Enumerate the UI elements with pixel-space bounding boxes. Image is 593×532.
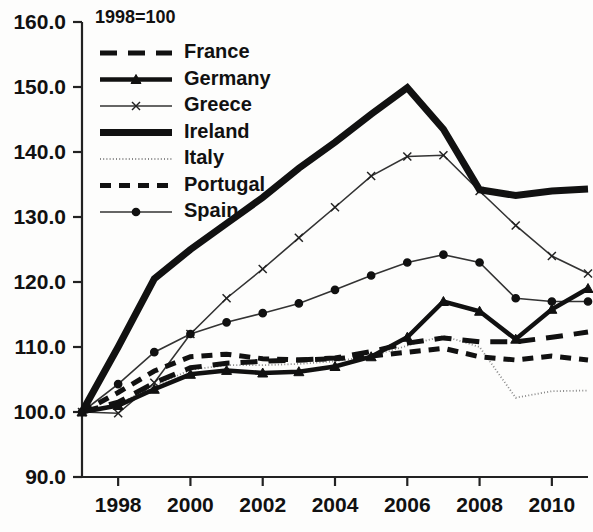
x-axis-ticks: 1998200020022004200620082010 <box>95 477 575 516</box>
legend-label-ireland: Ireland <box>184 120 250 142</box>
series-marker-spain <box>368 272 375 279</box>
series-marker-spain <box>404 259 411 266</box>
legend-item-germany[interactable]: Germany <box>100 67 272 89</box>
legend-label-france: France <box>184 40 250 62</box>
y-tick-label: 140.0 <box>13 140 66 163</box>
series-marker-spain <box>440 251 447 258</box>
legend-marker-spain <box>132 208 139 215</box>
legend-item-spain[interactable]: Spain <box>100 199 238 221</box>
x-tick-label: 2008 <box>456 493 503 516</box>
x-tick-label: 1998 <box>95 493 142 516</box>
series-marker-spain <box>512 295 519 302</box>
series-marker-greece <box>295 234 303 242</box>
y-tick-label: 150.0 <box>13 75 66 98</box>
y-tick-label: 120.0 <box>13 270 66 293</box>
legend-item-greece[interactable]: Greece <box>100 93 252 115</box>
y-tick-label: 110.0 <box>15 335 66 358</box>
series-marker-greece <box>367 172 375 180</box>
chart-container: 90.0100.0110.0120.0130.0140.0150.0160.0 … <box>0 0 593 532</box>
series-marker-greece <box>512 221 520 229</box>
legend-item-portugal[interactable]: Portugal <box>100 173 265 195</box>
x-tick-label: 2010 <box>528 493 575 516</box>
legend-label-spain: Spain <box>184 199 238 221</box>
series-marker-spain <box>259 310 266 317</box>
series-italy <box>82 336 588 412</box>
series-marker-greece <box>223 294 231 302</box>
x-tick-label: 2004 <box>312 493 359 516</box>
chart-title: 1998=100 <box>95 7 176 27</box>
series-marker-greece <box>584 270 592 278</box>
series-marker-spain <box>584 298 591 305</box>
series-marker-spain <box>223 319 230 326</box>
legend-item-ireland[interactable]: Ireland <box>100 120 250 142</box>
legend-label-portugal: Portugal <box>184 173 265 195</box>
chart-series-group <box>77 88 593 418</box>
series-line-italy <box>82 336 588 412</box>
chart-axes <box>82 22 588 477</box>
series-marker-greece <box>259 265 267 273</box>
legend-label-italy: Italy <box>184 146 225 168</box>
series-marker-spain <box>331 286 338 293</box>
y-tick-label: 160.0 <box>13 10 66 33</box>
legend-label-greece: Greece <box>184 93 252 115</box>
series-marker-spain <box>151 349 158 356</box>
legend-label-germany: Germany <box>184 67 272 89</box>
series-marker-spain <box>115 380 122 387</box>
series-marker-greece <box>548 252 556 260</box>
series-marker-greece <box>331 203 339 211</box>
y-axis-ticks: 90.0100.0110.0120.0130.0140.0150.0160.0 <box>13 10 82 488</box>
legend-item-france[interactable]: France <box>100 40 250 62</box>
y-tick-label: 90.0 <box>25 465 66 488</box>
series-marker-spain <box>187 330 194 337</box>
legend-item-italy[interactable]: Italy <box>100 146 225 168</box>
x-tick-label: 2006 <box>384 493 431 516</box>
series-marker-spain <box>476 259 483 266</box>
series-marker-spain <box>295 300 302 307</box>
x-tick-label: 2000 <box>167 493 214 516</box>
y-tick-label: 100.0 <box>13 400 66 423</box>
y-tick-label: 130.0 <box>13 205 66 228</box>
chart-legend: FranceGermanyGreeceIrelandItalyPortugalS… <box>100 40 272 221</box>
x-tick-label: 2002 <box>239 493 286 516</box>
line-chart: 90.0100.0110.0120.0130.0140.0150.0160.0 … <box>0 0 593 532</box>
